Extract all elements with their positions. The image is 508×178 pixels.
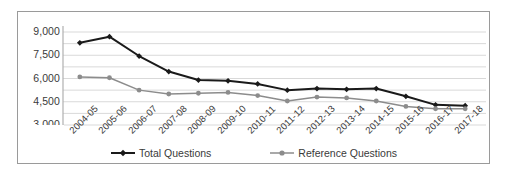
data-point-marker (463, 106, 468, 111)
data-point-marker (196, 91, 201, 96)
data-point-marker (403, 93, 409, 99)
data-point-marker (166, 92, 171, 97)
data-point-marker (344, 86, 350, 92)
data-point-marker (315, 95, 320, 100)
data-point-marker (107, 75, 112, 80)
chart-container: 3,0004,5006,0007,5009,000 2004-052005-06… (17, 11, 490, 164)
y-axis-tick-label: 7,500 (18, 48, 60, 60)
chart-plot-area (18, 12, 489, 163)
legend-entry-total-questions: Total Questions (110, 147, 211, 159)
y-axis-tick-label: 6,000 (18, 72, 60, 84)
data-point-marker (77, 75, 82, 80)
data-point-marker (77, 40, 83, 46)
y-axis-labels: 3,0004,5006,0007,5009,000 (18, 12, 65, 143)
data-point-marker (433, 106, 438, 111)
legend-label: Reference Questions (298, 147, 397, 159)
y-axis-label-clip-mask (18, 125, 64, 143)
legend-entry-reference-questions: Reference Questions (269, 147, 397, 159)
legend-label: Total Questions (139, 147, 211, 159)
y-axis-tick-label: 4,500 (18, 95, 60, 107)
legend-marker-icon (269, 148, 295, 158)
legend-marker-icon (110, 148, 136, 158)
data-point-marker (255, 93, 260, 98)
chart-legend: Total QuestionsReference Questions (18, 143, 489, 163)
series-line (80, 77, 465, 109)
data-point-marker (137, 88, 142, 93)
data-point-marker (344, 95, 349, 100)
data-series-group (77, 34, 468, 111)
data-point-marker (285, 99, 290, 104)
data-point-marker (284, 87, 290, 93)
data-point-marker (255, 81, 261, 87)
data-point-marker (226, 90, 231, 95)
data-point-marker (403, 104, 408, 109)
gridlines (63, 26, 486, 137)
series-total-questions (77, 34, 468, 109)
y-axis-tick-label: 9,000 (18, 25, 60, 37)
data-point-marker (374, 99, 379, 104)
